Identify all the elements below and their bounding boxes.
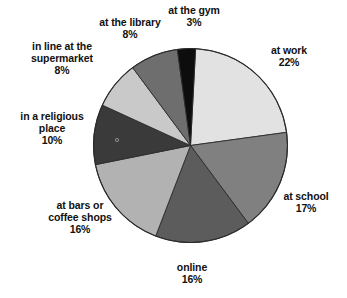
- slice-label-name: online: [152, 261, 232, 273]
- slice-label-percent: 16%: [26, 223, 134, 235]
- slice-label-name: at the gym: [152, 4, 236, 16]
- slice-label-at-bars-or-coffee-shops: at bars or coffee shops 16%: [26, 199, 134, 236]
- slice-label-at-school: at school 17%: [268, 190, 344, 214]
- slice-label-percent: 8%: [82, 28, 178, 40]
- pie-chart-figure: at the gym 3% at work 22% at school 17% …: [0, 0, 347, 298]
- slice-label-in-line-at-the-supermarket: in line at the supermarket 8%: [6, 40, 118, 77]
- slice-label-percent: 10%: [2, 134, 102, 146]
- slice-label-percent: 22%: [248, 56, 330, 68]
- slice-label-percent: 8%: [6, 64, 118, 76]
- slice-label-name: at school: [268, 190, 344, 202]
- slice-label-name: at work: [248, 44, 330, 56]
- slice-label-at-work: at work 22%: [248, 44, 330, 68]
- slice-label-percent: 16%: [152, 273, 232, 285]
- slice-label-name-line1: in a religious: [2, 110, 102, 122]
- slice-label-at-the-library: at the library 8%: [82, 16, 178, 40]
- slice-label-online: online 16%: [152, 261, 232, 285]
- slice-label-name-line2: supermarket: [6, 52, 118, 64]
- slice-label-name-line1: in line at the: [6, 40, 118, 52]
- slice-label-in-a-religious-place: in a religious place 10%: [2, 110, 102, 147]
- slice-label-percent: 17%: [268, 202, 344, 214]
- slice-label-name-line2: coffee shops: [26, 211, 134, 223]
- slice-label-name: at the library: [82, 16, 178, 28]
- slice-label-name-line2: place: [2, 122, 102, 134]
- slice-label-name-line1: at bars or: [26, 199, 134, 211]
